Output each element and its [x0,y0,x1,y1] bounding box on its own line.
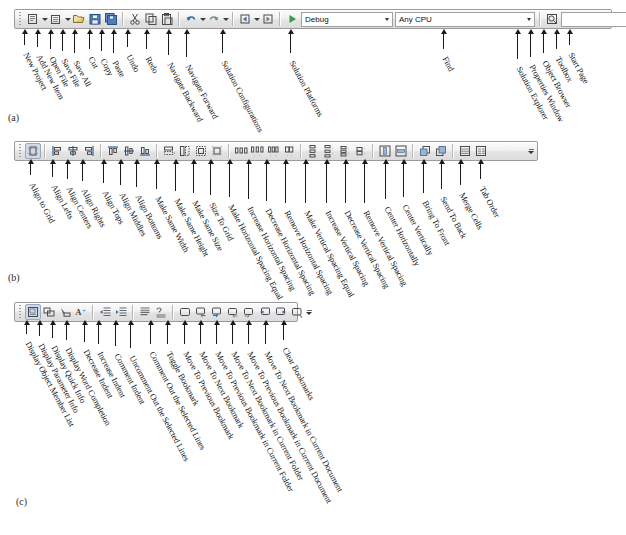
make-same-height-icon[interactable] [177,143,193,159]
make-vertical-spacing-equal-icon[interactable] [305,143,321,159]
cut-icon[interactable] [127,11,143,27]
callout-arrow [37,33,38,47]
center-vertically-icon[interactable] [393,143,409,159]
save-all-icon[interactable] [103,11,119,27]
remove-horizontal-spacing-icon[interactable]: ++ [281,143,297,159]
toolbar-grip[interactable] [18,12,23,26]
callout-arrow [543,33,544,53]
callout-arrow [530,33,531,57]
align-to-grid-icon[interactable] [25,143,41,159]
size-to-grid-icon[interactable] [209,143,225,159]
navigate-forward-icon[interactable] [260,11,276,27]
bring-to-front-icon[interactable] [417,143,433,159]
move-to-previous-bookmark-in-document-icon[interactable] [257,304,273,320]
solution-configurations-value: Debug [305,15,381,24]
callout-arrow [120,163,121,185]
center-horizontally-icon[interactable] [377,143,393,159]
navigate-backward-dropdown-icon[interactable] [253,11,260,27]
undo-icon[interactable] [183,11,199,27]
toolbar-overflow-icon[interactable] [527,143,535,159]
align-rights-icon[interactable] [81,143,97,159]
callout-label: Find [441,55,457,73]
display-parameter-info-icon[interactable] [41,304,57,320]
paste-icon[interactable] [159,11,175,27]
toolbar-grip[interactable] [18,144,23,158]
increase-horizontal-spacing-icon[interactable]: ++ [249,143,265,159]
redo-icon[interactable] [206,11,222,27]
tab-order-icon[interactable] [473,143,489,159]
move-to-next-bookmark-in-document-icon[interactable] [273,304,289,320]
send-to-back-icon[interactable] [433,143,449,159]
toolbar-grip[interactable] [18,305,23,319]
toolbar-separator [372,144,374,158]
callout-label: Tab Order [478,185,503,219]
callout-arrow [115,324,116,346]
callout-arrow [326,163,327,203]
display-object-member-list-icon[interactable] [25,304,41,320]
align-centers-icon[interactable] [65,143,81,159]
callout-arrow [193,163,194,193]
callout-arrow [266,163,267,201]
uncomment-selected-lines-icon[interactable] [153,304,169,320]
layout-toolbar[interactable]: ++ ++ ++ ++ ++ ++ [14,141,538,161]
toolbar-overflow-icon[interactable] [305,304,313,320]
add-new-item-icon[interactable] [48,11,64,27]
merge-cells-icon[interactable] [457,143,473,159]
solution-platforms-combo[interactable]: Any CPU [395,12,535,27]
make-same-size-icon[interactable] [193,143,209,159]
decrease-indent-icon[interactable] [97,304,113,320]
remove-vertical-spacing-icon[interactable]: ++ [353,143,369,159]
callout-arrow [441,163,442,189]
align-bottoms-icon[interactable] [137,143,153,159]
callout-arrow [385,163,386,199]
new-project-dropdown-icon[interactable] [41,11,48,27]
undo-dropdown-icon[interactable] [199,11,206,27]
move-to-previous-bookmark-icon[interactable] [193,304,209,320]
comment-selected-lines-icon[interactable] [137,304,153,320]
solution-configurations-combo[interactable]: Debug [301,12,393,27]
move-to-previous-bookmark-in-folder-icon[interactable] [225,304,241,320]
make-same-width-icon[interactable] [161,143,177,159]
callout-arrow [569,33,570,45]
display-quick-info-icon[interactable] [57,304,73,320]
save-file-icon[interactable] [87,11,103,27]
toggle-bookmark-icon[interactable] [177,304,193,320]
svg-text:+: + [258,153,261,158]
toolbar-separator [412,144,414,158]
decrease-vertical-spacing-icon[interactable]: ++ [337,143,353,159]
callout-arrow [150,324,151,344]
callout-arrow [82,163,83,181]
callout-arrow [67,163,68,179]
clear-bookmarks-icon[interactable] [289,304,305,320]
increase-indent-icon[interactable] [113,304,129,320]
callout-arrow [168,33,169,55]
increase-vertical-spacing-icon[interactable]: ++ [321,143,337,159]
callout-arrow [423,163,424,193]
align-middles-icon[interactable] [121,143,137,159]
text-editor-toolbar[interactable]: A+ [14,302,298,322]
align-tops-icon[interactable] [105,143,121,159]
redo-dropdown-icon[interactable] [222,11,229,27]
toolbar-separator [92,305,94,319]
find-icon[interactable] [544,11,560,27]
copy-icon[interactable] [143,11,159,27]
solution-platforms-dropdown-icon[interactable] [523,13,534,26]
panel-caption-c: (c) [16,496,27,507]
callout-arrow [186,33,187,57]
solution-configurations-dropdown-icon[interactable] [381,13,392,26]
find-combo[interactable] [561,12,626,27]
move-to-next-bookmark-in-folder-icon[interactable] [241,304,257,320]
decrease-horizontal-spacing-icon[interactable]: ++ [265,143,281,159]
open-file-icon[interactable] [71,11,87,27]
add-new-item-dropdown-icon[interactable] [64,11,71,27]
toolbar-separator [156,144,158,158]
toolbar-separator [232,12,234,26]
start-debugging-icon[interactable] [284,11,300,27]
display-word-completion-icon[interactable]: A+ [73,304,89,320]
new-project-icon[interactable] [25,11,41,27]
navigate-backward-icon[interactable] [237,11,253,27]
standard-toolbar[interactable]: Debug Any CPU [14,9,612,29]
move-to-next-bookmark-icon[interactable] [209,304,225,320]
align-lefts-icon[interactable] [49,143,65,159]
make-horizontal-spacing-equal-icon[interactable] [233,143,249,159]
